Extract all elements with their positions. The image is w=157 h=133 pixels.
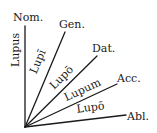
form-label-nom: Lupus: [9, 33, 22, 68]
case-label-gen: Gen.: [59, 18, 85, 31]
case-label-abl: Abl.: [126, 110, 149, 123]
case-label-nom: Nom.: [13, 11, 43, 24]
declension-diagram: Nom. Gen. Dat. Acc. Abl. Lupus Lupī Lupō…: [0, 0, 157, 133]
form-label-abl: Lupō: [76, 99, 106, 115]
case-label-dat: Dat.: [92, 42, 115, 55]
branch-line-abl: [25, 115, 126, 127]
form-label-gen: Lupī: [27, 47, 49, 75]
case-label-acc: Acc.: [116, 72, 141, 85]
